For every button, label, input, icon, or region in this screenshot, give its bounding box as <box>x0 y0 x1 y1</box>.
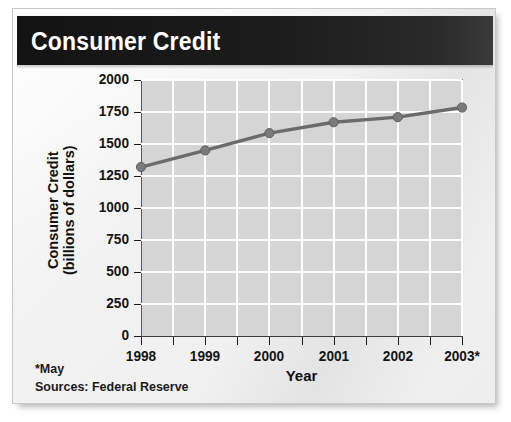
y-axis-tick-mark <box>134 336 141 337</box>
chart-card: Consumer Credit Consumer Credit (billion… <box>12 8 496 404</box>
y-axis-tick-label: 250 <box>74 295 129 311</box>
title-band-shadow <box>17 65 493 69</box>
y-axis-tick-mark <box>134 176 141 177</box>
x-axis-tick-mark-minor <box>237 337 238 345</box>
x-axis-tick-mark <box>141 337 142 345</box>
y-axis-tick-label: 750 <box>74 231 129 247</box>
series-line <box>141 108 462 168</box>
y-axis-tick-label: 1000 <box>74 199 129 215</box>
y-axis-tick-mark <box>134 208 141 209</box>
x-axis-tick-mark-minor <box>173 337 174 345</box>
y-axis-tick-mark <box>134 112 141 113</box>
x-axis-tick-mark-minor <box>430 337 431 345</box>
y-axis-tick-mark <box>134 80 141 81</box>
y-axis-tick-label: 1250 <box>74 167 129 183</box>
x-axis-title: Year <box>141 367 462 384</box>
x-axis-tick-mark-minor <box>302 337 303 345</box>
x-axis-tick-mark <box>334 337 335 345</box>
y-axis-tick-mark <box>134 240 141 241</box>
x-axis-tick-label: 2002 <box>370 348 426 364</box>
footnote-sources: Sources: Federal Reserve <box>35 378 189 396</box>
x-axis-tick-mark <box>205 337 206 345</box>
y-axis-tick-label: 1750 <box>74 103 129 119</box>
data-point-marker <box>457 103 466 112</box>
footnote-asterisk: *May <box>35 360 189 378</box>
y-axis-tick-mark <box>134 304 141 305</box>
title-band: Consumer Credit <box>17 16 493 65</box>
data-point-marker <box>201 146 210 155</box>
y-axis-tick-label: 500 <box>74 263 129 279</box>
data-point-marker <box>265 129 274 138</box>
data-point-marker <box>393 113 402 122</box>
data-point-marker <box>329 118 338 127</box>
x-axis-tick-mark <box>398 337 399 345</box>
x-axis-tick-mark <box>462 337 463 345</box>
y-axis-tick-label: 0 <box>74 327 129 343</box>
series-line-chart <box>141 80 462 336</box>
footnotes: *May Sources: Federal Reserve <box>35 360 189 396</box>
y-axis-tick-label: 1500 <box>74 135 129 151</box>
data-point-marker <box>136 162 145 171</box>
y-axis-title-line1: Consumer Credit <box>45 151 61 269</box>
x-axis-tick-label: 2001 <box>305 348 361 364</box>
y-axis-tick-label: 2000 <box>74 71 129 87</box>
page-title: Consumer Credit <box>31 27 220 56</box>
x-axis-tick-mark <box>269 337 270 345</box>
x-axis-tick-mark-minor <box>366 337 367 345</box>
y-axis-tick-mark <box>134 272 141 273</box>
x-axis-tick-label: 2000 <box>241 348 297 364</box>
plot-region <box>141 80 462 336</box>
x-axis-tick-label: 2003* <box>434 348 490 364</box>
y-axis-tick-mark <box>134 144 141 145</box>
